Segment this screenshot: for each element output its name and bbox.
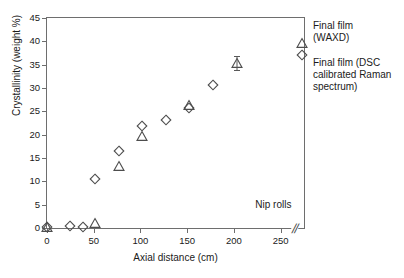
y-tick xyxy=(42,111,47,112)
chart-figure: Crystallinity (weight %) Axial distance … xyxy=(0,0,404,278)
x-tick-label: 100 xyxy=(133,236,149,246)
x-tick xyxy=(234,228,235,233)
legend-waxd-line2: (WAXD) xyxy=(313,32,349,43)
y-tick xyxy=(42,205,47,206)
y-tick xyxy=(42,65,47,66)
x-tick-label: 150 xyxy=(179,236,195,246)
x-tick xyxy=(281,228,282,233)
legend-final-film-waxd: Final film (WAXD) xyxy=(313,20,404,44)
axis-break-icon: // xyxy=(289,222,299,235)
x-tick-label: 50 xyxy=(88,236,99,246)
y-tick xyxy=(42,135,47,136)
y-tick-label: 10 xyxy=(29,177,40,187)
legend-final-film-raman: Final film (DSC calibrated Raman spectru… xyxy=(313,57,404,93)
x-tick-label: 0 xyxy=(44,236,49,246)
y-tick xyxy=(42,41,47,42)
y-tick xyxy=(42,88,47,89)
y-tick-label: 45 xyxy=(29,13,40,23)
x-tick xyxy=(140,228,141,233)
y-tick-label: 30 xyxy=(29,83,40,93)
error-bar xyxy=(236,56,237,70)
y-tick-label: 5 xyxy=(35,200,40,210)
plot-area: 051015202530354045050100150200250//Nip r… xyxy=(46,17,305,229)
legend-waxd-line1: Final film xyxy=(313,20,353,31)
error-bar-cap xyxy=(234,56,240,57)
y-tick-label: 40 xyxy=(29,37,40,47)
y-tick-label: 0 xyxy=(35,223,40,233)
x-axis-title: Axial distance (cm) xyxy=(46,252,305,263)
y-tick xyxy=(42,18,47,19)
x-tick-label: 200 xyxy=(226,236,242,246)
y-tick-label: 15 xyxy=(29,153,40,163)
x-tick xyxy=(94,228,95,233)
x-tick xyxy=(187,228,188,233)
y-tick-label: 20 xyxy=(29,130,40,140)
y-axis-title: Crystallinity (weight %) xyxy=(11,0,22,166)
error-bar-cap xyxy=(234,70,240,71)
y-tick xyxy=(42,181,47,182)
y-tick xyxy=(42,158,47,159)
y-tick-label: 25 xyxy=(29,107,40,117)
x-tick-label: 250 xyxy=(273,236,289,246)
nip-rolls-label: Nip rolls xyxy=(255,199,291,210)
y-tick-label: 35 xyxy=(29,60,40,70)
